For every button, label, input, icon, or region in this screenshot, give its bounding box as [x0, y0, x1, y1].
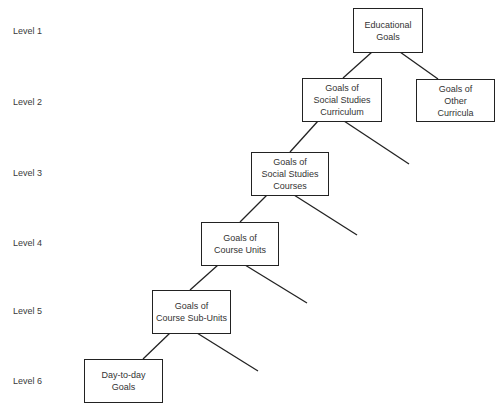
node-course-units: Goals of Course Units — [201, 222, 279, 266]
node-social-studies-curriculum: Goals of Social Studies Curriculum — [302, 78, 382, 122]
node-text-line: Other — [437, 95, 473, 107]
node-text-line: Course Units — [214, 244, 266, 256]
edge-curriculum-to-courses — [290, 121, 318, 152]
node-text-line: Goals of — [313, 82, 370, 94]
dangling-branch-level-2 — [344, 121, 409, 164]
node-text-line: Goals — [364, 31, 411, 43]
edge-sub-units-to-day-to-day — [143, 333, 170, 359]
node-text-line: Goals of — [214, 232, 266, 244]
dangling-branch-level-4 — [245, 265, 307, 303]
edge-educational-to-other-curricula — [400, 52, 438, 79]
node-text-line: Educational — [364, 19, 411, 31]
node-text-line: Day-to-day — [101, 369, 145, 381]
node-social-studies-courses: Goals of Social Studies Courses — [251, 152, 329, 196]
edge-units-to-sub-units — [190, 265, 218, 290]
node-text-line: Social Studies — [313, 94, 370, 106]
node-text-line: Curriculum — [313, 106, 370, 118]
node-text-line: Goals — [101, 381, 145, 393]
dangling-branch-level-3 — [294, 195, 357, 235]
node-text-line: Curricula — [437, 107, 473, 119]
node-text-line: Goals of — [261, 156, 318, 168]
node-text-line: Goals of — [156, 300, 227, 312]
connector-lines — [0, 0, 503, 414]
node-educational-goals: Educational Goals — [353, 8, 423, 53]
edge-educational-to-social-studies-curriculum — [343, 52, 372, 78]
node-text-line: Social Studies — [261, 168, 318, 180]
dangling-branch-level-5 — [197, 333, 258, 371]
node-text-line: Course Sub-Units — [156, 312, 227, 324]
node-course-sub-units: Goals of Course Sub-Units — [152, 290, 231, 334]
node-text-line: Courses — [261, 180, 318, 192]
node-day-to-day-goals: Day-to-day Goals — [84, 359, 163, 403]
node-text-line: Goals of — [437, 83, 473, 95]
node-other-curricula: Goals of Other Curricula — [416, 79, 495, 122]
edge-courses-to-units — [240, 195, 267, 222]
